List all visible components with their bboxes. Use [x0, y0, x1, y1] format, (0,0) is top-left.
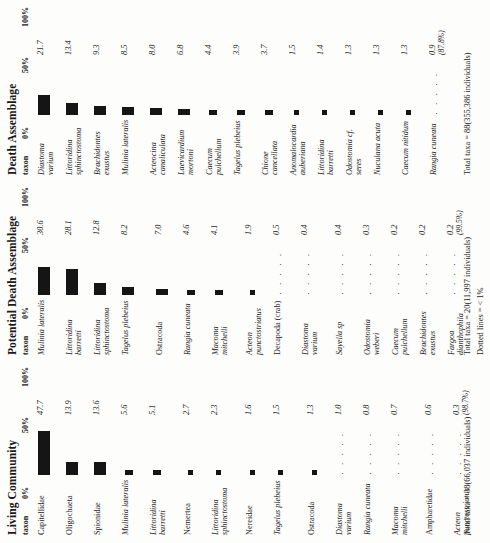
taxon-value: 9.3: [92, 45, 101, 55]
total-taxa-potential: Total taxa = 20(11,997 individuals): [463, 237, 472, 355]
bar: [94, 463, 106, 476]
taxon-name: Mulinia lateralis: [121, 119, 130, 175]
bar: [188, 470, 193, 475]
dotted-bar: · · · · ·: [341, 251, 343, 295]
bar: [378, 110, 383, 115]
dotted-bar: · · · · ·: [459, 431, 461, 475]
taxon-name: Macoma mitchelli: [391, 479, 410, 535]
bar-cell: [66, 23, 79, 115]
axis-tick-100-potential: 100%: [21, 187, 30, 207]
taxon-name: Mulinia lateralis: [121, 479, 130, 535]
bar: [215, 290, 223, 295]
taxon-row: Spionidae13.6: [92, 361, 120, 537]
bar-cell: [38, 203, 51, 295]
panel-potential-death-assemblage: Potential Death Assemblage taxon 0% 50% …: [0, 181, 490, 357]
taxon-row: Littoridina sphinctostoma2.3: [210, 361, 238, 537]
taxon-value: 2.3: [210, 405, 219, 415]
taxon-name: Littoridina sphinctostoma: [211, 479, 230, 535]
taxon-row: Littoridina barretti5.1: [148, 361, 176, 537]
taxon-row: Oligochaeta13.9: [64, 361, 92, 537]
bar-cell: [38, 383, 51, 475]
taxon-value: 4.4: [204, 45, 213, 55]
taxon-value: 0.4: [334, 225, 343, 235]
axis-tick-100-death: 100%: [21, 7, 30, 27]
bar: [312, 470, 317, 475]
dotted-bar: · · · · ·: [397, 251, 399, 295]
taxon-name: Acteon punctostriatus: [245, 299, 264, 355]
taxon-name: Littoridina barretti: [149, 479, 168, 535]
rows-potential-death-assemblage: Mulinia lateralis30.6Littoridina barrett…: [36, 181, 474, 357]
taxon-row: Laevicardium mortoni6.8: [176, 1, 204, 177]
taxon-name: Rangia cuneata: [183, 299, 192, 355]
dotted-bar: · · · · ·: [453, 251, 455, 295]
taxon-value: 7.0: [154, 225, 163, 235]
axis-potential: 0% 50% 100%: [21, 181, 33, 357]
bar-cell: [212, 203, 225, 295]
taxon-name: Tagelus plebeius: [273, 479, 282, 535]
bar: [150, 108, 162, 115]
taxon-value: 6.8: [176, 45, 185, 55]
bar: [38, 267, 50, 295]
taxon-value: 0.2: [390, 225, 399, 235]
dotted-lines-note: Dotted lines = < 1%: [476, 287, 485, 355]
taxon-value: 1.3: [372, 45, 381, 55]
bar: [94, 106, 106, 115]
taxon-value: 28.1: [64, 220, 73, 235]
bar: [125, 470, 133, 475]
taxon-name: Odostomia cf. seres: [345, 119, 364, 175]
taxon-row: Tagelus plebeius8.2: [120, 181, 148, 357]
taxon-name: Littoridina sphinctostoma: [65, 119, 84, 175]
bar-cell: [156, 203, 169, 295]
taxon-row: Diastoma varium21.7: [36, 1, 64, 177]
taxon-name: Littoridina barretti: [65, 299, 84, 355]
bar-cell: [94, 203, 107, 295]
taxon-value: 0.3: [362, 225, 371, 235]
bar-cell: [274, 383, 287, 475]
taxon-value: 13.6: [92, 400, 101, 415]
taxon-value: 1.3: [344, 45, 353, 55]
bar-cell: [246, 203, 259, 295]
taxon-name: Mulinia lateralis: [37, 299, 46, 355]
bar: [66, 269, 78, 295]
taxon-value: 8.5: [120, 45, 129, 55]
bar-cell: [178, 23, 191, 115]
taxon-value: 8.0: [148, 45, 157, 55]
taxon-value: 0.2: [418, 225, 427, 235]
axis-tick-50-death: 50%: [21, 57, 30, 73]
taxon-row: Capitellidae47.7: [36, 361, 64, 537]
bar: [278, 470, 283, 475]
taxon-name: Spionidae: [93, 479, 102, 535]
taxon-row: Macoma mitchelli4.1: [210, 181, 238, 357]
taxon-row: Ostracoda7.0: [154, 181, 182, 357]
abundance-figure: Living Community taxon 0% 50% 100% Capit…: [0, 0, 490, 543]
bar: [66, 462, 78, 475]
bar-cell: [122, 203, 135, 295]
bar-cell: · · · · ·: [364, 203, 377, 295]
taxon-row: Littoridina barretti1.4: [316, 1, 344, 177]
taxon-value: 0.5: [272, 225, 281, 235]
taxon-value: 21.7: [36, 40, 45, 55]
panel-living-community: Living Community taxon 0% 50% 100% Capit…: [0, 361, 490, 537]
axis-death: 0% 50% 100%: [21, 1, 33, 177]
taxon-name: Caecum pulchellum: [205, 119, 224, 175]
taxon-name: Brachidontes exustus: [419, 299, 438, 355]
taxon-row: Anomalocardia auberiana1.5: [288, 1, 316, 177]
taxon-name: Brachidontes exustus: [93, 119, 112, 175]
dotted-bar: · · · · ·: [369, 251, 371, 295]
taxon-value: 3.9: [232, 45, 241, 55]
bar-cell: [346, 23, 359, 115]
bar: [94, 283, 106, 295]
bar-cell: · · · · ·: [392, 383, 405, 475]
taxon-name: Ostracoda: [155, 299, 164, 355]
taxon-name: Diastoma varium: [37, 119, 56, 175]
taxon-name: Oligochaeta: [65, 479, 74, 535]
taxon-row: Decapoda (crab)· · · · ·0.5: [272, 181, 300, 357]
taxon-name: Littoridina sphinctostoma: [93, 299, 112, 355]
axis-tick-0-potential: 0%: [21, 307, 30, 319]
taxon-value: 1.4: [316, 45, 325, 55]
bar-cell: · · · · ·: [302, 203, 315, 295]
axis-tick-0-living: 0%: [21, 487, 30, 499]
bar-cell: [150, 23, 163, 115]
total-taxa-living: Total taxa = 38(66,037 individuals): [463, 417, 472, 535]
panel-death-assemblage: Death Assemblage taxon 0% 50% 100% Diast…: [0, 1, 490, 177]
